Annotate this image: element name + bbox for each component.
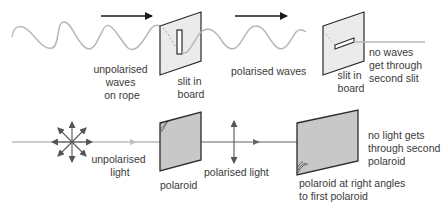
unpolarised-arrows-icon — [52, 122, 92, 162]
label-unpolarised-waves: unpolarised waves on rope — [93, 63, 150, 101]
light-section — [12, 110, 358, 175]
label-polarised-light: polarised light — [204, 166, 269, 178]
label-no-waves: no waves get through second slit — [369, 46, 425, 84]
rope-section — [12, 12, 425, 75]
vertical-slit — [177, 30, 182, 54]
polarisation-diagram: unpolarised waves on rope slit in board … — [0, 0, 447, 208]
polaroid-2 — [297, 110, 358, 175]
label-slit-board-1: slit in board — [178, 75, 205, 100]
label-slit-board-2: slit in board — [338, 69, 365, 94]
label-polarised-waves: polarised waves — [231, 65, 306, 77]
label-polaroid-1: polaroid — [160, 179, 198, 191]
unpolarised-rope-wave — [12, 22, 160, 49]
polaroid-1 — [160, 112, 201, 171]
label-unpolarised-light: unpolarised light — [91, 153, 148, 178]
label-no-light: no light gets through second polaroid — [368, 129, 443, 167]
label-polaroid-2: polaroid at right angles to first polaro… — [299, 177, 408, 202]
